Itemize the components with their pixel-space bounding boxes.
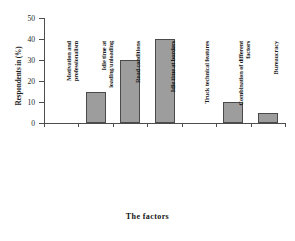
y-tick-30	[39, 60, 44, 61]
y-tick-label-30: 30	[11, 56, 35, 65]
y-tick-40	[39, 39, 44, 40]
x-category-label-4: Truck technical features	[203, 41, 210, 127]
y-tick-label-50: 50	[11, 14, 35, 23]
y-tick-label-40: 40	[11, 35, 35, 44]
x-category-label-0: Motivation andprofessionalism	[65, 41, 79, 127]
x-category-label-2: Road conditions	[134, 41, 141, 127]
y-tick-label-0: 0	[11, 119, 35, 128]
x-tick-7	[285, 123, 286, 127]
y-tick-10	[39, 102, 44, 103]
x-category-label-3: Idle time at borders	[169, 41, 176, 127]
x-axis-title: The factors	[0, 212, 295, 221]
y-axis-line	[44, 18, 45, 123]
bar-chart: Respondents in (%) 01020304050 Motivatio…	[0, 0, 295, 241]
x-tick-5	[216, 123, 217, 127]
x-tick-3	[147, 123, 148, 127]
x-tick-0	[44, 123, 45, 127]
y-tick-label-20: 20	[11, 77, 35, 86]
x-category-label-1: Idle time atloading/unloading	[100, 41, 114, 127]
y-tick-20	[39, 81, 44, 82]
x-tick-4	[182, 123, 183, 127]
x-category-label-5: Combination of differentfactors	[237, 41, 251, 127]
x-category-label-6: Bureaucracy	[272, 41, 279, 127]
y-tick-label-10: 10	[11, 98, 35, 107]
y-tick-50	[39, 18, 44, 19]
